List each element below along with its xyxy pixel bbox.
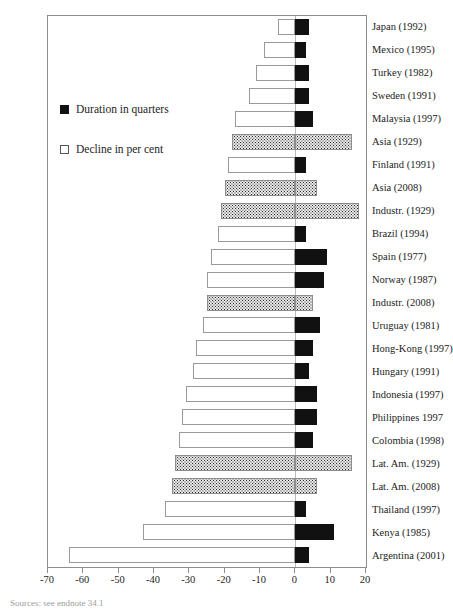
bar-row bbox=[48, 475, 366, 498]
bar-rows bbox=[48, 16, 366, 567]
axis-tick-label: -50 bbox=[111, 574, 125, 585]
decline-swatch-icon bbox=[60, 145, 69, 154]
bar-row bbox=[48, 337, 366, 360]
category-label: Indonesia (1997) bbox=[372, 389, 443, 400]
bar-row bbox=[48, 406, 366, 429]
category-label: Hong-Kong (1997) bbox=[372, 343, 453, 354]
duration-bar bbox=[295, 272, 323, 288]
axis-tick bbox=[365, 568, 366, 573]
category-label: Turkey (1982) bbox=[372, 67, 433, 78]
duration-swatch-icon bbox=[60, 105, 69, 114]
duration-bar bbox=[295, 157, 306, 173]
decline-bar bbox=[69, 547, 295, 563]
bar-row bbox=[48, 314, 366, 337]
category-label: Philippines 1997 bbox=[372, 412, 443, 423]
decline-bar bbox=[193, 363, 295, 379]
bar-row bbox=[48, 154, 366, 177]
decline-bar bbox=[182, 409, 295, 425]
category-label: Asia (1929) bbox=[372, 136, 422, 147]
axis-tick-label: -60 bbox=[75, 574, 89, 585]
decline-bar bbox=[207, 272, 295, 288]
axis-tick bbox=[82, 568, 83, 573]
decline-bar bbox=[179, 432, 296, 448]
bar-row bbox=[48, 429, 366, 452]
category-label: Argentina (2001) bbox=[372, 550, 444, 561]
axis-tick bbox=[294, 568, 295, 573]
decline-bar bbox=[143, 524, 295, 540]
category-label: Japan (1992) bbox=[372, 21, 427, 32]
decline-bar bbox=[218, 226, 296, 242]
duration-bar bbox=[295, 501, 306, 517]
decline-bar bbox=[256, 65, 295, 81]
bar-row bbox=[48, 521, 366, 544]
axis-tick-label: -10 bbox=[252, 574, 266, 585]
axis-tick bbox=[153, 568, 154, 573]
duration-bar bbox=[295, 340, 313, 356]
bar-row bbox=[48, 200, 366, 223]
duration-bar bbox=[295, 180, 316, 196]
bar-row bbox=[48, 39, 366, 62]
axis-tick bbox=[118, 568, 119, 573]
source-footnote: Sources: see endnote 34.1 bbox=[10, 598, 103, 608]
axis-tick-label: -40 bbox=[146, 574, 160, 585]
category-label: Kenya (1985) bbox=[372, 527, 430, 538]
bar-row bbox=[48, 498, 366, 521]
decline-bar bbox=[232, 134, 296, 150]
legend-item-duration: Duration in quarters bbox=[60, 103, 169, 115]
duration-bar bbox=[295, 295, 313, 311]
decline-bar bbox=[165, 501, 296, 517]
axis-tick-label: -30 bbox=[181, 574, 195, 585]
category-label: Brazil (1994) bbox=[372, 228, 428, 239]
bar-row bbox=[48, 360, 366, 383]
legend-label-decline: Decline in per cent bbox=[76, 143, 163, 155]
category-label: Thailand (1997) bbox=[372, 504, 440, 515]
duration-bar bbox=[295, 386, 316, 402]
x-axis-tick-labels: -70-60-50-40-30-20-1001020 bbox=[0, 574, 427, 590]
axis-tick bbox=[330, 568, 331, 573]
decline-bar bbox=[249, 88, 295, 104]
category-label: Hungary (1991) bbox=[372, 366, 439, 377]
duration-bar bbox=[295, 432, 313, 448]
axis-tick bbox=[224, 568, 225, 573]
bar-row bbox=[48, 223, 366, 246]
category-label: Uruguay (1981) bbox=[372, 320, 439, 331]
decline-bar bbox=[225, 180, 296, 196]
category-label: Colombia (1998) bbox=[372, 435, 444, 446]
category-label: Asia (2008) bbox=[372, 182, 422, 193]
bar-row bbox=[48, 62, 366, 85]
category-label: Industr. (2008) bbox=[372, 297, 434, 308]
bar-row bbox=[48, 292, 366, 315]
category-label: Malaysia (1997) bbox=[372, 113, 441, 124]
axis-tick-label: 10 bbox=[324, 574, 335, 585]
decline-bar bbox=[264, 42, 296, 58]
duration-bar bbox=[295, 226, 306, 242]
legend-item-decline: Decline in per cent bbox=[60, 143, 163, 155]
duration-bar bbox=[295, 111, 313, 127]
decline-bar bbox=[278, 19, 296, 35]
bar-row bbox=[48, 383, 366, 406]
decline-bar bbox=[186, 386, 296, 402]
category-label: Spain (1977) bbox=[372, 251, 427, 262]
bar-row bbox=[48, 177, 366, 200]
duration-bar bbox=[295, 547, 309, 563]
duration-bar bbox=[295, 134, 352, 150]
duration-bar bbox=[295, 363, 309, 379]
duration-bar bbox=[295, 524, 334, 540]
axis-tick bbox=[259, 568, 260, 573]
axis-tick-label: -70 bbox=[40, 574, 54, 585]
duration-bar bbox=[295, 19, 309, 35]
bar-row bbox=[48, 16, 366, 39]
duration-bar bbox=[295, 249, 327, 265]
axis-tick bbox=[188, 568, 189, 573]
axis-tick-label: 20 bbox=[360, 574, 371, 585]
category-label: Lat. Am. (1929) bbox=[372, 458, 440, 469]
duration-bar bbox=[295, 478, 316, 494]
category-label: Sweden (1991) bbox=[372, 90, 436, 101]
duration-bar bbox=[295, 409, 316, 425]
duration-bar bbox=[295, 42, 306, 58]
decline-bar bbox=[203, 317, 295, 333]
category-label: Norway (1987) bbox=[372, 274, 436, 285]
duration-bar bbox=[295, 65, 309, 81]
decline-bar bbox=[175, 455, 295, 471]
